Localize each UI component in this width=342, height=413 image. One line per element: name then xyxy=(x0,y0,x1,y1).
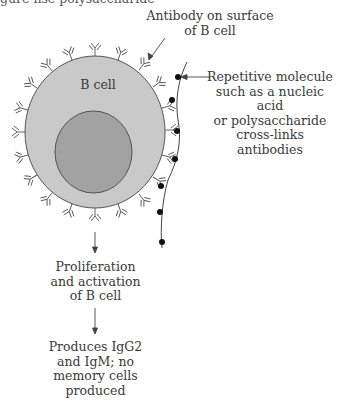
arrow-antibody-label xyxy=(148,38,165,60)
b-cell-nucleus xyxy=(55,111,132,193)
label-produces: Produces IgG2 and IgM; no memory cells p… xyxy=(48,340,143,398)
label-repetitive-molecule: Repetitive molecule such as a nucleic ac… xyxy=(205,70,335,157)
arrow-down-proliferation xyxy=(93,232,98,253)
label-proliferation: Proliferation and activation of B cell xyxy=(48,260,143,304)
label-b-cell: B cell xyxy=(68,78,128,93)
label-antibody: Antibody on surface of B cell xyxy=(145,9,275,38)
arrow-down-produces xyxy=(93,308,98,334)
